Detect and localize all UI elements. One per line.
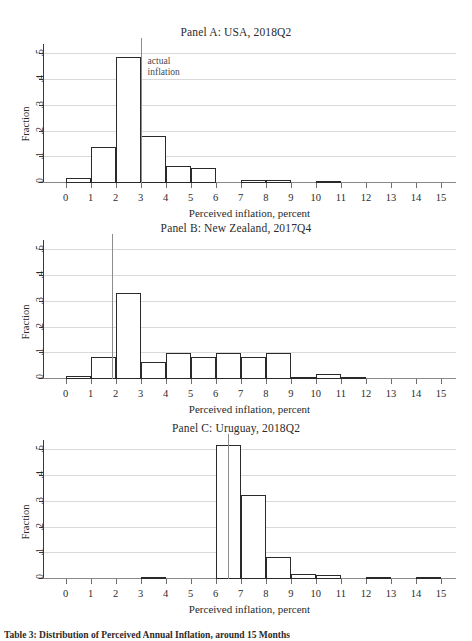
x-tick-label: 2: [113, 192, 118, 203]
panel-b-y-axis: [43, 240, 44, 379]
x-tick: [191, 379, 192, 384]
x-tick: [216, 379, 217, 384]
x-tick: [191, 579, 192, 584]
x-tick: [316, 183, 317, 188]
y-tick-label: .4: [34, 271, 45, 279]
x-tick-label: 1: [88, 192, 93, 203]
x-tick-label: 0: [63, 388, 68, 399]
y-tick-label: .2: [34, 523, 45, 531]
x-tick: [391, 379, 392, 384]
figure-caption: Table 3: Distribution of Perceived Annua…: [4, 630, 468, 640]
histogram-bar: [116, 293, 141, 379]
x-tick: [141, 579, 142, 584]
gridline: [43, 79, 456, 80]
y-tick-label: .3: [34, 297, 45, 305]
panel-a: Panel A: USA, 2018Q2 Fraction 0.1.2.3.4.…: [0, 26, 472, 222]
actual-inflation-annotation: actualinflation: [148, 56, 180, 77]
x-tick-label: 11: [336, 588, 346, 599]
x-tick-label: 6: [213, 388, 218, 399]
histogram-bar: [241, 495, 266, 579]
x-tick-label: 7: [238, 388, 243, 399]
x-tick-label: 13: [386, 588, 397, 599]
y-tick-label: .3: [34, 497, 45, 505]
gridline: [43, 249, 456, 250]
x-tick-label: 3: [138, 192, 143, 203]
x-tick-label: 6: [213, 588, 218, 599]
x-tick: [416, 579, 417, 584]
histogram-bar: [91, 147, 116, 183]
x-tick-label: 14: [411, 388, 422, 399]
panel-b: Panel B: New Zealand, 2017Q4 Fraction 0.…: [0, 222, 472, 422]
x-tick-label: 8: [263, 588, 268, 599]
x-tick-label: 3: [138, 388, 143, 399]
panel-c-title: Panel C: Uruguay, 2018Q2: [0, 422, 472, 434]
y-tick-label: .2: [34, 127, 45, 135]
x-tick-label: 4: [163, 388, 168, 399]
x-tick-label: 12: [361, 192, 372, 203]
actual-inflation-line: [228, 434, 229, 579]
x-tick: [116, 579, 117, 584]
y-tick-label: .1: [34, 348, 45, 356]
x-tick-label: 9: [288, 388, 293, 399]
histogram-bar: [366, 577, 391, 579]
histogram-bar: [166, 353, 191, 379]
x-tick: [316, 379, 317, 384]
histogram-bar: [316, 374, 341, 379]
histogram-bar: [191, 168, 216, 183]
gridline: [43, 105, 456, 106]
histogram-bar: [241, 180, 266, 183]
histogram-bar: [116, 57, 141, 183]
panel-c-y-axis: [43, 440, 44, 579]
gridline: [43, 301, 456, 302]
histogram-bar: [416, 577, 441, 579]
x-tick-label: 8: [263, 192, 268, 203]
x-tick-label: 13: [386, 192, 397, 203]
y-tick-label: .4: [34, 471, 45, 479]
y-tick-label: .1: [34, 152, 45, 160]
x-tick-label: 10: [311, 588, 322, 599]
x-tick-label: 15: [436, 192, 447, 203]
panel-c: Panel C: Uruguay, 2018Q2 Fraction 0.1.2.…: [0, 422, 472, 622]
x-tick: [166, 379, 167, 384]
x-tick: [366, 579, 367, 584]
annotation-line-2: inflation: [148, 67, 180, 78]
x-tick: [291, 183, 292, 188]
x-tick: [66, 183, 67, 188]
y-tick-label: .5: [34, 445, 45, 453]
histogram-bar: [66, 376, 91, 379]
y-tick-label: .5: [34, 245, 45, 253]
panel-a-y-axis-title: Fraction: [20, 107, 31, 142]
x-tick: [91, 183, 92, 188]
histogram-bar: [216, 353, 241, 379]
panel-b-title: Panel B: New Zealand, 2017Q4: [0, 222, 472, 234]
x-tick: [441, 379, 442, 384]
x-tick: [341, 579, 342, 584]
x-tick-label: 10: [311, 388, 322, 399]
x-tick: [266, 379, 267, 384]
histogram-bar: [66, 178, 91, 183]
x-tick-label: 7: [238, 192, 243, 203]
x-tick: [416, 379, 417, 384]
figure-three-panel-histograms: ···· ···· · Panel A: USA, 2018Q2 Fractio…: [0, 0, 472, 641]
x-tick: [116, 183, 117, 188]
x-tick-label: 15: [436, 588, 447, 599]
histogram-bar: [341, 377, 366, 379]
histogram-bar: [241, 357, 266, 379]
x-tick: [391, 579, 392, 584]
x-tick-label: 1: [88, 388, 93, 399]
histogram-bar: [141, 136, 166, 183]
panel-a-plot-area: 0.1.2.3.4.50123456789101112131415actuali…: [43, 44, 456, 183]
panel-b-plot-area: 0.1.2.3.4.50123456789101112131415: [43, 240, 456, 379]
x-tick-label: 4: [163, 192, 168, 203]
x-tick: [366, 183, 367, 188]
x-tick-label: 9: [288, 588, 293, 599]
x-tick-label: 15: [436, 388, 447, 399]
panel-b-y-axis-title: Fraction: [20, 305, 31, 340]
y-tick-label: .3: [34, 101, 45, 109]
x-tick-label: 8: [263, 388, 268, 399]
x-tick-label: 6: [213, 192, 218, 203]
panel-b-x-axis-title: Perceived inflation, percent: [43, 403, 456, 415]
x-tick: [241, 579, 242, 584]
histogram-bar: [266, 557, 291, 579]
histogram-bar: [141, 577, 166, 579]
